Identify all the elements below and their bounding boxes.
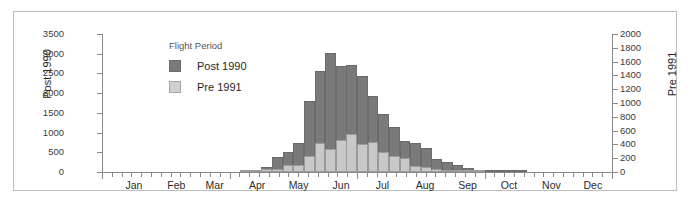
x-axis-tick — [612, 173, 613, 179]
bar-segment-pre-1991 — [357, 144, 368, 172]
bar-group[interactable] — [431, 34, 442, 172]
x-axis-tick — [445, 173, 446, 177]
chart-figure: Post 1990 Pre 1991 050010001500200025003… — [0, 0, 690, 203]
bar-group[interactable] — [357, 34, 368, 172]
x-axis-tick — [367, 173, 368, 177]
bar-segment-post-1990 — [485, 170, 496, 172]
x-axis-month-label: Nov — [542, 180, 561, 191]
bar-group[interactable] — [336, 34, 347, 172]
y-axis-right-tick-label: 200 — [620, 153, 636, 163]
y-axis-right-tick — [613, 131, 618, 132]
y-axis-right-tick — [613, 89, 618, 90]
bar-group[interactable] — [474, 34, 485, 172]
bar-group[interactable] — [389, 34, 400, 172]
bar-group[interactable] — [325, 34, 336, 172]
bar-group[interactable] — [378, 34, 389, 172]
bar-group[interactable] — [506, 34, 517, 172]
x-axis-tick — [396, 173, 397, 177]
y-axis-right-tick-label: 600 — [620, 126, 636, 136]
x-axis-month-label: Mar — [206, 180, 224, 191]
x-axis-tick — [465, 173, 466, 177]
x-axis-month-label: Sep — [458, 180, 477, 191]
y-axis-right-tick — [613, 144, 618, 145]
bar-group[interactable] — [346, 34, 357, 172]
x-axis-tick — [239, 173, 240, 177]
x-axis-month-label: May — [289, 180, 309, 191]
x-axis-tick — [386, 173, 387, 177]
x-axis-month-label: Feb — [167, 180, 185, 191]
bar-segment-pre-1991 — [378, 152, 389, 172]
bar-group[interactable] — [516, 34, 527, 172]
y-axis-right-tick — [613, 75, 618, 76]
bar-segment-pre-1991 — [304, 156, 315, 172]
y-axis-right-tick — [613, 117, 618, 118]
bar-segment-pre-1991 — [389, 156, 400, 172]
x-axis-tick — [180, 173, 181, 177]
bar-segment-post-1990 — [516, 170, 527, 172]
y-axis-right-tick — [613, 34, 618, 35]
x-axis-tick — [141, 173, 142, 177]
bar-segment-pre-1991 — [315, 143, 326, 172]
x-axis-tick — [230, 173, 231, 179]
bar-group[interactable] — [495, 34, 506, 172]
legend-item-post-1990[interactable]: Post 1990 — [169, 60, 319, 72]
x-axis-tick — [112, 173, 113, 177]
legend-label-post-1990: Post 1990 — [197, 60, 247, 72]
bar-group[interactable] — [410, 34, 421, 172]
bar-segment-pre-1991 — [368, 142, 379, 172]
x-axis-tick — [583, 173, 584, 177]
x-axis-tick — [455, 173, 456, 177]
bar-group[interactable] — [463, 34, 474, 172]
bar-group[interactable] — [368, 34, 379, 172]
y-axis-right-tick-label: 0 — [620, 167, 625, 177]
bar-segment-pre-1991 — [431, 169, 442, 172]
legend-title: Flight Period — [169, 40, 319, 51]
x-axis-tick — [288, 173, 289, 177]
y-axis-left-tick-label: 0 — [59, 167, 64, 177]
bar-segment-pre-1991 — [325, 149, 336, 172]
y-axis-left-tick-label: 1500 — [43, 108, 64, 118]
y-axis-left-tick-label: 3500 — [43, 29, 64, 39]
bar-segment-pre-1991 — [463, 170, 474, 172]
y-axis-right-tick-label: 1600 — [620, 57, 641, 67]
bar-segment-pre-1991 — [400, 158, 411, 172]
x-axis-tick — [308, 173, 309, 177]
y-axis-right-tick — [613, 48, 618, 49]
y-axis-right-tick — [613, 158, 618, 159]
x-axis-tick — [475, 173, 476, 177]
bar-segment-post-1990 — [506, 170, 517, 172]
y-axis-right-tick-label: 1200 — [620, 84, 641, 94]
y-axis-left-tick-label: 2000 — [43, 88, 64, 98]
bar-segment-pre-1991 — [283, 165, 294, 172]
x-axis-tick — [406, 173, 407, 177]
y-axis-right-tick — [613, 103, 618, 104]
legend-item-pre-1991[interactable]: Pre 1991 — [169, 81, 319, 93]
chart-legend: Flight Period Post 1990 Pre 1991 — [169, 40, 319, 102]
x-axis-month-label: Apr — [249, 180, 265, 191]
x-axis-tick — [337, 173, 338, 177]
x-axis-tick — [524, 173, 525, 177]
y-axis-right-tick — [613, 172, 618, 173]
x-axis-tick — [563, 173, 564, 177]
bar-segment-pre-1991 — [336, 140, 347, 172]
bar-group[interactable] — [400, 34, 411, 172]
bar-segment-pre-1991 — [272, 169, 283, 172]
y-axis-right-tick-label: 400 — [620, 139, 636, 149]
bar-segment-pre-1991 — [453, 170, 464, 172]
x-axis-tick — [602, 173, 603, 177]
bar-group[interactable] — [442, 34, 453, 172]
x-axis-month-label: Oct — [501, 180, 517, 191]
x-axis-tick — [485, 173, 486, 179]
bar-group[interactable] — [453, 34, 464, 172]
y-axis-right-tick-label: 1400 — [620, 70, 641, 80]
x-axis-tick — [298, 173, 299, 177]
y-axis-left-tick-label: 3000 — [43, 49, 64, 59]
y-axis-right-tick-label: 1800 — [620, 43, 641, 53]
x-axis-tick — [494, 173, 495, 177]
x-axis-tick — [131, 173, 132, 177]
legend-label-pre-1991: Pre 1991 — [197, 81, 242, 93]
bar-group[interactable] — [485, 34, 496, 172]
x-axis-tick — [573, 173, 574, 177]
bar-group[interactable] — [421, 34, 432, 172]
x-axis-tick — [190, 173, 191, 177]
